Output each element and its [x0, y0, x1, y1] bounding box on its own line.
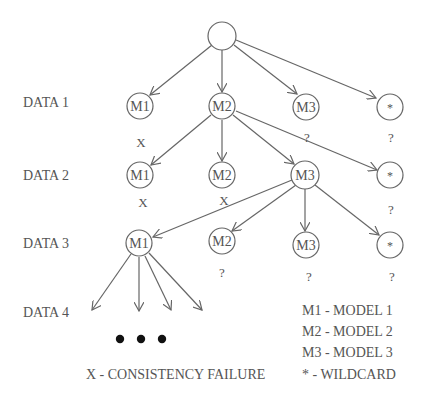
node-m1-row2: M1 X	[127, 162, 153, 210]
legend-item-wildcard: * - WILDCARD	[302, 367, 396, 382]
legend-item-m2: M2 - MODEL 2	[302, 324, 393, 339]
node-m3-row3: M3 ?	[293, 232, 319, 284]
edges-m2-row1	[151, 111, 377, 170]
node-m3-row1: M3 ?	[293, 94, 319, 145]
svg-text:*: *	[387, 169, 393, 183]
legend-consistency-failure: X - CONSISTENCY FAILURE	[86, 367, 265, 382]
unknown-mark: ?	[219, 265, 225, 280]
row-2-nodes: M1 X M2 X M3 * ?	[127, 161, 403, 217]
svg-text:M3: M3	[295, 168, 314, 183]
model-search-tree-diagram: DATA 1 DATA 2 DATA 3 DATA 4 M	[0, 0, 428, 396]
edges-root	[150, 40, 376, 98]
edges-m3-row2	[153, 180, 379, 237]
failure-mark: X	[138, 195, 148, 210]
unknown-mark: ?	[306, 269, 312, 284]
row-label-data-4: DATA 4	[23, 305, 69, 320]
svg-text:M1: M1	[129, 236, 148, 251]
row-3-nodes: M1 M2 ? M3 ? * ?	[126, 228, 403, 284]
failure-mark: X	[136, 135, 146, 150]
unknown-mark: ?	[389, 269, 395, 284]
unknown-mark: ?	[388, 130, 394, 145]
unknown-mark: ?	[304, 130, 310, 145]
legend-item-m3: M3 - MODEL 3	[302, 345, 393, 360]
node-m2-row2: M2 X	[209, 162, 235, 208]
svg-text:M2: M2	[212, 234, 231, 249]
continuation-dots	[116, 335, 166, 343]
svg-text:M1: M1	[130, 168, 149, 183]
legend: M1 - MODEL 1 M2 - MODEL 2 M3 - MODEL 3 *…	[86, 303, 396, 382]
unknown-mark: ?	[388, 202, 394, 217]
root-node	[208, 22, 236, 50]
node-wildcard-row3: * ?	[377, 232, 403, 284]
legend-item-m1: M1 - MODEL 1	[302, 303, 393, 318]
node-m1-row1: M1 X	[127, 93, 153, 150]
node-wildcard-row1: * ?	[377, 94, 403, 145]
svg-text:M1: M1	[130, 99, 149, 114]
svg-text:*: *	[387, 101, 393, 115]
node-m1-row3: M1	[126, 230, 152, 256]
failure-mark: X	[219, 193, 229, 208]
node-m2-row3: M2 ?	[209, 228, 235, 280]
svg-text:M2: M2	[212, 168, 231, 183]
svg-text:M2: M2	[212, 99, 231, 114]
node-m3-row2: M3	[291, 161, 319, 189]
svg-text:M3: M3	[296, 238, 315, 253]
node-m2-row1: M2	[209, 93, 235, 119]
node-wildcard-row2: * ?	[377, 162, 403, 217]
svg-text:M3: M3	[296, 100, 315, 115]
row-label-data-3: DATA 3	[23, 236, 69, 251]
edges-m1-row3	[92, 253, 202, 311]
row-label-data-1: DATA 1	[23, 95, 69, 110]
row-label-data-2: DATA 2	[23, 168, 69, 183]
svg-text:*: *	[387, 239, 393, 253]
